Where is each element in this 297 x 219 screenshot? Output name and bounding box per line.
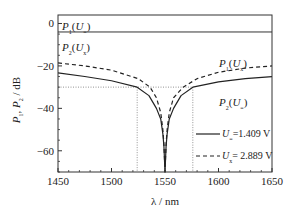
chart: 145015001550160016500−20−40−60 P1(U=) P2… (0, 0, 297, 219)
x-tick-label: 1500 (101, 175, 124, 187)
top-panel-label-1: P1(U=) (61, 20, 91, 35)
legend: U==1.409 V Ux= 2.889 V (196, 128, 273, 164)
x-tick-label: 1550 (154, 175, 177, 187)
y-axis-label: P1, P2 / dB (10, 77, 24, 124)
plot-frame (58, 15, 272, 172)
y-tick-label: −40 (37, 102, 55, 114)
y-tick-label: −20 (37, 60, 55, 72)
x-tick-label: 1450 (47, 175, 70, 187)
x-tick-label: 1650 (261, 175, 284, 187)
y-tick-label: −60 (37, 145, 55, 157)
top-panel-label-2: P2(Ux) (61, 41, 90, 56)
x-tick-label: 1600 (208, 175, 231, 187)
curve-label-p2: P2(U=) (218, 96, 248, 111)
legend-entry-solid: U==1.409 V (222, 128, 271, 142)
x-axis-label: λ / nm (151, 195, 179, 207)
curve-label-p1: P1(Ux) (218, 57, 247, 72)
reference-lines (58, 87, 193, 172)
y-tick-label: 0 (49, 17, 55, 29)
legend-entry-dashed: Ux= 2.889 V (222, 150, 273, 164)
